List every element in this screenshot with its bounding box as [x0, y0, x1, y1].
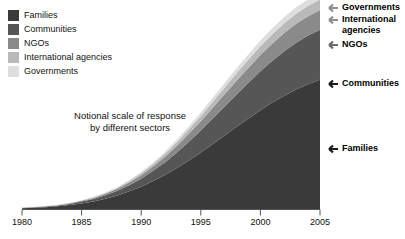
- annotation-label-international-line1: International: [342, 14, 396, 24]
- legend-swatch-governments: [8, 66, 19, 77]
- legend-swatch-communities: [8, 24, 19, 35]
- x-tick-label-2000: 2000: [250, 217, 270, 227]
- arrow-left-icon: [325, 15, 339, 25]
- annotation-label-international-line2: agencies: [342, 25, 381, 35]
- arrow-left-icon: [325, 40, 339, 50]
- annotation-communities: Communities: [325, 78, 399, 89]
- legend-label-ngos: NGOs: [24, 38, 49, 49]
- legend-label-international-agencies: International agencies: [24, 52, 112, 63]
- legend-swatch-international-agencies: [8, 52, 19, 63]
- legend-item-families[interactable]: Families: [8, 9, 112, 22]
- annotation-label-ngos: NGOs: [342, 39, 368, 50]
- annotation-ngos: NGOs: [325, 39, 368, 50]
- annotation-label-international-agencies: Internationalagencies: [342, 14, 405, 35]
- arrow-left-icon: [325, 79, 339, 89]
- x-tick-label-1995: 1995: [191, 217, 211, 227]
- arrow-left-icon: [325, 3, 339, 13]
- annotation-governments: Governments: [325, 2, 400, 13]
- annotation-label-families: Families: [342, 143, 378, 154]
- x-tick-label-1980: 1980: [12, 217, 32, 227]
- annotation-label-governments: Governments: [342, 2, 400, 13]
- legend-label-communities: Communities: [24, 24, 77, 35]
- legend-swatch-ngos: [8, 38, 19, 49]
- legend-item-international-agencies[interactable]: International agencies: [8, 51, 112, 64]
- x-tick-label-2005: 2005: [310, 217, 330, 227]
- annotation-families: Families: [325, 143, 378, 154]
- caption-line-2: by different sectors: [52, 122, 208, 134]
- legend-item-ngos[interactable]: NGOs: [8, 37, 112, 50]
- legend-label-governments: Governments: [24, 66, 78, 77]
- legend-swatch-families: [8, 10, 19, 21]
- x-tick-label-1985: 1985: [72, 217, 92, 227]
- arrow-left-icon: [325, 144, 339, 154]
- legend: Families Communities NGOs International …: [8, 9, 112, 79]
- legend-label-families: Families: [24, 10, 58, 21]
- caption-line-1: Notional scale of response: [52, 110, 208, 122]
- legend-item-governments[interactable]: Governments: [8, 65, 112, 78]
- legend-item-communities[interactable]: Communities: [8, 23, 112, 36]
- x-axis: [22, 210, 320, 216]
- annotation-international-agencies: Internationalagencies: [325, 14, 405, 35]
- x-tick-label-1990: 1990: [131, 217, 151, 227]
- chart-caption: Notional scale of response by different …: [52, 110, 208, 134]
- x-axis-ticks: [22, 210, 320, 216]
- annotation-label-communities: Communities: [342, 78, 399, 89]
